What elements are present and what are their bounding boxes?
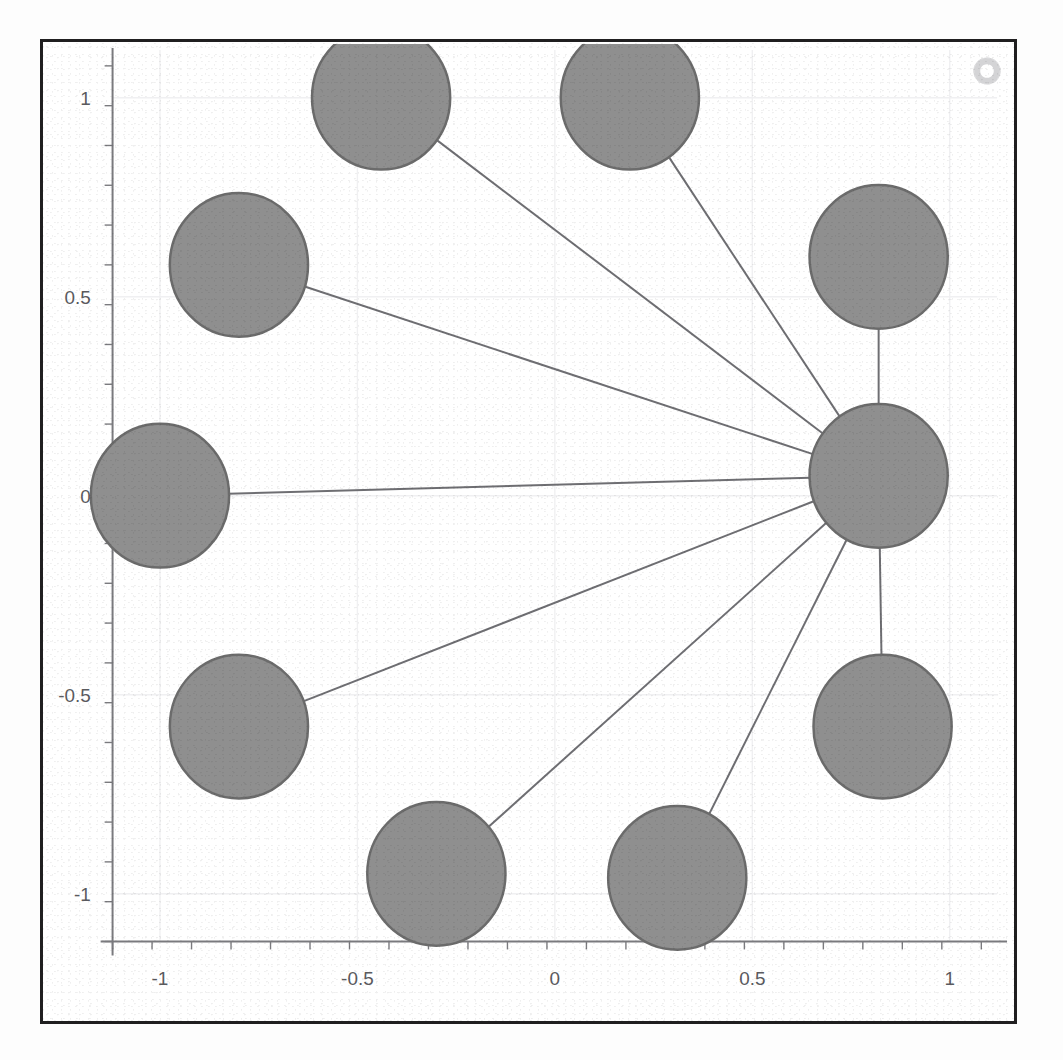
graph-node[interactable] xyxy=(810,404,948,548)
plot-frame: -1-0.500.51-1-0.500.51 xyxy=(40,39,1017,1024)
graph-node[interactable] xyxy=(170,193,308,337)
graph-edge xyxy=(708,537,848,817)
y-tick-label: -0.5 xyxy=(58,685,91,706)
plot-canvas: -1-0.500.51-1-0.500.51 xyxy=(43,42,1014,1021)
y-tick-label: 0 xyxy=(80,486,90,507)
graph-node[interactable] xyxy=(91,424,229,568)
graph-node[interactable] xyxy=(170,655,308,799)
x-tick-label: -1 xyxy=(152,968,169,989)
x-tick-label: 1 xyxy=(944,968,954,989)
graph-node[interactable] xyxy=(813,655,951,799)
graph-edge xyxy=(436,139,825,434)
x-tick-label: -0.5 xyxy=(341,968,374,989)
x-tick-label: 0 xyxy=(550,968,560,989)
y-tick-label: -1 xyxy=(74,884,91,905)
graph-edge xyxy=(880,544,882,658)
page-top-text-fragment: the features are now searched for these. xyxy=(0,0,1063,14)
ring-icon xyxy=(970,54,1004,88)
x-tick-label: 0.5 xyxy=(739,968,765,989)
graph-edge xyxy=(304,286,814,454)
graph-edge xyxy=(487,522,828,828)
y-tick-label: 1 xyxy=(80,88,90,109)
graph-node[interactable] xyxy=(367,802,505,946)
graph-node[interactable] xyxy=(561,42,699,170)
graph-node[interactable] xyxy=(810,185,948,329)
graph-node[interactable] xyxy=(312,42,450,170)
top-text-line: the features are now searched for these. xyxy=(8,0,261,4)
figure-container: -1-0.500.51-1-0.500.51 xyxy=(40,39,1017,1024)
graph-node[interactable] xyxy=(608,806,746,950)
y-tick-label: 0.5 xyxy=(64,287,90,308)
graph-edge xyxy=(228,478,810,494)
